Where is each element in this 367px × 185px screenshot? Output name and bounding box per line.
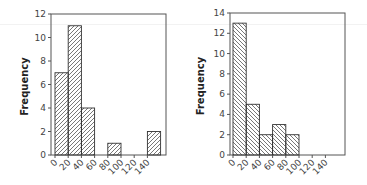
- histogram-bar: [81, 108, 94, 155]
- y-tick-label: 0: [40, 150, 46, 160]
- histogram-right: 02468101214020406080100120140Frequency: [183, 0, 367, 185]
- histogram-bar: [273, 125, 286, 155]
- y-tick-label: 0: [219, 150, 225, 160]
- histogram-bar: [147, 132, 160, 156]
- histogram-bar: [55, 73, 68, 155]
- y-axis-label: Frequency: [19, 57, 30, 116]
- histogram-left: 024681012020406080100120140Frequency: [0, 0, 183, 185]
- histogram-right-svg: 02468101214020406080100120140Frequency: [183, 0, 367, 185]
- histogram-bar: [259, 135, 272, 155]
- y-tick-label: 14: [214, 8, 226, 18]
- y-tick-label: 4: [219, 109, 225, 119]
- y-tick-label: 2: [40, 127, 46, 137]
- y-tick-label: 12: [35, 9, 46, 19]
- histogram-bar: [246, 104, 259, 155]
- y-axis-label: Frequency: [195, 56, 206, 115]
- x-tick-label: 140: [311, 157, 330, 176]
- y-tick-label: 4: [40, 103, 46, 113]
- histogram-bar: [68, 26, 81, 155]
- y-tick-label: 6: [40, 80, 46, 90]
- y-tick-label: 6: [219, 89, 225, 99]
- y-tick-label: 10: [35, 33, 47, 43]
- y-tick-label: 2: [219, 130, 225, 140]
- histogram-bar: [286, 135, 299, 155]
- y-tick-label: 8: [40, 56, 46, 66]
- histogram-left-svg: 024681012020406080100120140Frequency: [0, 0, 183, 185]
- x-tick-label: 140: [133, 157, 152, 176]
- histogram-bar: [233, 23, 246, 155]
- y-tick-label: 8: [219, 69, 225, 79]
- y-tick-label: 10: [214, 49, 226, 59]
- y-tick-label: 12: [214, 28, 225, 38]
- histogram-bar: [108, 143, 121, 155]
